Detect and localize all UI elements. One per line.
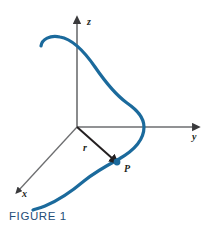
space-curve <box>33 36 144 210</box>
z-axis: z <box>77 16 91 127</box>
y-axis: y <box>77 127 197 142</box>
y-axis-label: y <box>191 131 197 142</box>
point-p-marker <box>114 159 121 166</box>
position-vector: r <box>77 127 113 159</box>
x-axis-line <box>19 127 77 190</box>
point-p-label: P <box>124 163 131 174</box>
point-p: P <box>114 159 131 174</box>
z-axis-label: z <box>86 16 91 27</box>
x-axis-label: x <box>21 188 27 199</box>
figure-container: z y x r P FIGURE 1 <box>0 0 215 231</box>
figure-caption: FIGURE 1 <box>9 210 67 222</box>
x-axis: x <box>19 127 77 199</box>
position-vector-label: r <box>83 142 87 153</box>
figure-diagram: z y x r P <box>0 0 215 231</box>
